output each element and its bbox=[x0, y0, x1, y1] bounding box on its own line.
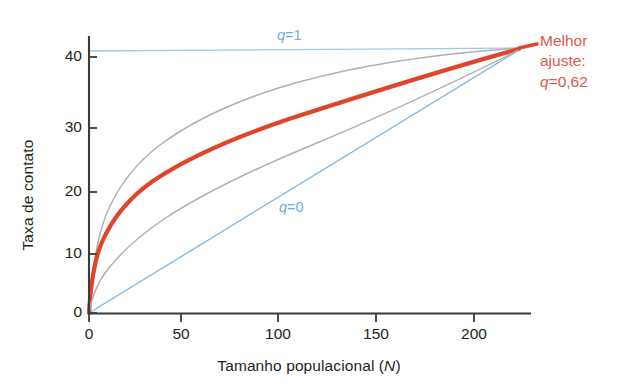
q-zero-value: =0 bbox=[287, 199, 304, 215]
q-one-symbol: q bbox=[277, 27, 285, 43]
x-axis-title-suffix: ) bbox=[395, 357, 400, 374]
y-tick-label-10: 10 bbox=[42, 244, 82, 262]
y-tick-label-30: 30 bbox=[42, 118, 82, 136]
callout-line-2: ajuste: bbox=[540, 51, 588, 71]
callout-line-1: Melhor bbox=[540, 31, 588, 51]
q-zero-symbol: q bbox=[279, 199, 287, 215]
callout-line-3: q=0,62 bbox=[540, 72, 588, 92]
callout-q-value: =0,62 bbox=[549, 73, 588, 90]
callout-q-symbol: q bbox=[540, 73, 549, 90]
y-tick-label-20: 20 bbox=[42, 182, 82, 200]
plot-curves bbox=[88, 48, 519, 313]
x-tick-label-50: 50 bbox=[151, 325, 211, 343]
q-zero-label: q=0 bbox=[279, 199, 304, 215]
y-tick-label-40: 40 bbox=[42, 47, 82, 65]
q-one-value: =1 bbox=[285, 27, 302, 43]
x-tick-label-200: 200 bbox=[444, 325, 504, 343]
x-axis-title: Tamanho populacional (N) bbox=[0, 357, 618, 375]
curve-q-one bbox=[88, 48, 519, 51]
best-fit-callout: Melhor ajuste: q=0,62 bbox=[540, 31, 588, 92]
x-axis-title-text: Tamanho populacional ( bbox=[217, 357, 384, 374]
x-tick-label-0: 0 bbox=[59, 325, 119, 343]
x-axis-title-symbol: N bbox=[384, 357, 395, 374]
y-axis-title: Taxa de contato bbox=[19, 115, 37, 275]
q-one-label: q=1 bbox=[277, 27, 302, 43]
x-tick-label-100: 100 bbox=[248, 325, 308, 343]
callout-leader-icon bbox=[519, 44, 537, 48]
x-tick-label-150: 150 bbox=[346, 325, 406, 343]
y-tick-label-0: 0 bbox=[42, 303, 82, 321]
